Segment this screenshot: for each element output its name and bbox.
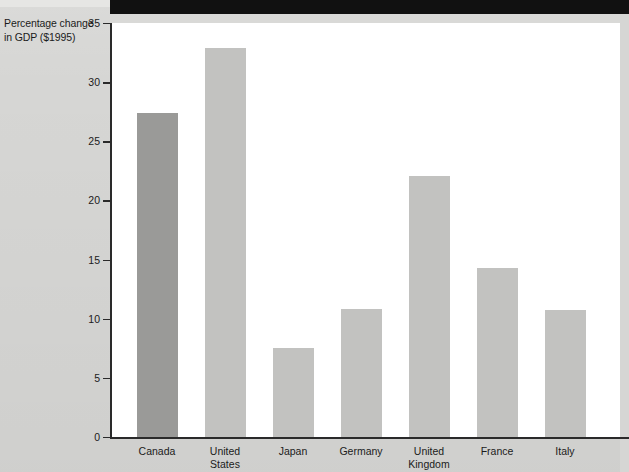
y-tick-mark xyxy=(103,82,110,83)
y-tick-label: 20 xyxy=(88,194,100,206)
page-top-left-notch xyxy=(0,0,110,7)
y-tick-mark xyxy=(103,319,110,320)
bar-germany xyxy=(341,309,382,437)
y-axis-line xyxy=(110,23,112,437)
y-tick-label: 0 xyxy=(94,431,100,443)
x-label-united-kingdom: United Kingdom xyxy=(390,445,468,471)
chart-plot-frame: 05101520253035 CanadaUnited StatesJapanG… xyxy=(110,23,620,437)
x-label-united-states: United States xyxy=(186,445,264,471)
y-tick-label: 30 xyxy=(88,76,100,88)
top-black-banner xyxy=(110,0,629,14)
x-label-japan: Japan xyxy=(254,445,332,458)
y-tick-mark xyxy=(103,260,110,261)
bar-united-kingdom xyxy=(409,176,450,437)
bar-italy xyxy=(545,310,586,437)
y-tick-label: 35 xyxy=(88,17,100,29)
x-axis-line xyxy=(110,437,629,439)
y-tick-label: 5 xyxy=(94,372,100,384)
y-tick-label: 10 xyxy=(88,313,100,325)
x-label-italy: Italy xyxy=(526,445,604,458)
y-tick-mark xyxy=(103,141,110,142)
bar-canada xyxy=(137,113,178,437)
y-tick-mark xyxy=(103,437,110,438)
y-tick-mark xyxy=(103,23,110,24)
bar-united-states xyxy=(205,48,246,437)
x-label-germany: Germany xyxy=(322,445,400,458)
right-page-gutter xyxy=(620,14,629,472)
bar-japan xyxy=(273,348,314,437)
y-tick-mark xyxy=(103,200,110,201)
y-tick-mark xyxy=(103,378,110,379)
y-tick-label: 25 xyxy=(88,135,100,147)
y-tick-label: 15 xyxy=(88,254,100,266)
y-axis-title-line-2: in GDP ($1995) xyxy=(4,31,104,45)
x-label-canada: Canada xyxy=(118,445,196,458)
bar-france xyxy=(477,268,518,437)
x-label-france: France xyxy=(458,445,536,458)
